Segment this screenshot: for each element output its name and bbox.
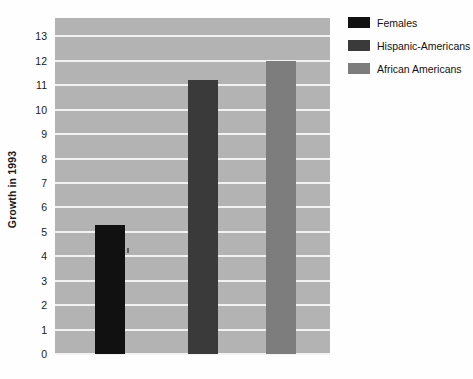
bar	[95, 225, 125, 355]
y-axis-tick-label: 8	[25, 153, 47, 165]
y-axis-tick-label: 6	[25, 201, 47, 213]
y-axis-tick-label: 11	[25, 79, 47, 91]
legend-item: Females	[348, 12, 472, 33]
legend-item: Hispanic-Americans	[348, 35, 472, 56]
y-axis-tick-label: 0	[25, 348, 47, 360]
y-axis-tick-label: 3	[25, 275, 47, 287]
legend-swatch-icon	[348, 17, 370, 28]
plot-area	[55, 18, 330, 354]
legend: FemalesHispanic-AmericansAfrican America…	[348, 12, 472, 81]
y-axis-tick-label: 12	[25, 55, 47, 67]
y-axis-tick-label: 10	[25, 104, 47, 116]
y-axis-tick-label: 13	[25, 30, 47, 42]
legend-item-label: Females	[377, 17, 417, 29]
y-axis-tick-label: 4	[25, 250, 47, 262]
bar-chart: Growth in 1993 012345678910111213 Female…	[0, 0, 473, 379]
y-axis-title: Growth in 1993	[0, 0, 24, 379]
y-axis-tick-label: 5	[25, 226, 47, 238]
y-axis-tick-label: 2	[25, 299, 47, 311]
legend-swatch-icon	[348, 63, 370, 74]
legend-item-label: Hispanic-Americans	[377, 40, 470, 52]
y-axis-tick-label: 1	[25, 324, 47, 336]
bar	[266, 61, 296, 354]
bar	[188, 80, 218, 354]
y-axis-tick-label: 9	[25, 128, 47, 140]
legend-swatch-icon	[348, 40, 370, 51]
y-axis-tick-label: 7	[25, 177, 47, 189]
speck-artifact	[127, 248, 129, 253]
legend-item-label: African Americans	[377, 63, 462, 75]
legend-item: African Americans	[348, 58, 472, 79]
gridline	[55, 35, 330, 37]
